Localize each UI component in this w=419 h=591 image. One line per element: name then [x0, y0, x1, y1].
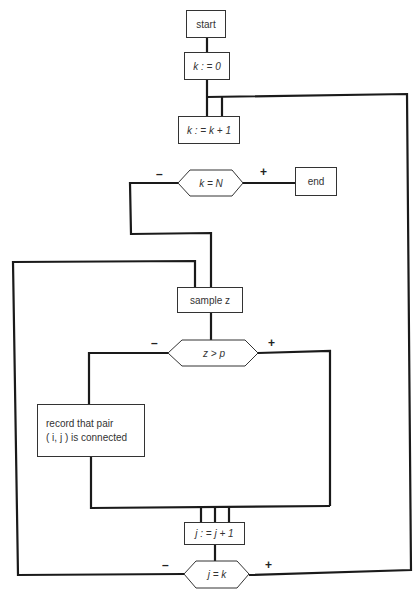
branch-label-z-gt-p-yes: +	[268, 337, 275, 349]
decision-j-equals-k-label: j = k	[208, 569, 227, 580]
start-label: start	[196, 19, 215, 30]
branch-label-j-equals-k-no: –	[162, 559, 169, 571]
record-node: record that pair ( i, j ) is connected	[37, 404, 145, 457]
decision-z-gt-p: z > p	[185, 343, 243, 363]
decision-z-gt-p-label: z > p	[203, 348, 225, 359]
increment-k-node: k : = k + 1	[178, 116, 240, 144]
record-label-line2: ( i, j ) is connected	[46, 431, 127, 445]
increment-j-node: j : = j + 1	[184, 522, 245, 545]
decision-k-equals-n: k = N	[192, 173, 230, 193]
branch-label-j-equals-k-yes: +	[265, 559, 272, 571]
decision-k-equals-n-label: k = N	[199, 178, 223, 189]
init-k-node: k : = 0	[184, 52, 230, 80]
decision-j-equals-k: j = k	[198, 564, 236, 584]
start-node: start	[186, 10, 226, 38]
init-k-label: k : = 0	[193, 61, 221, 72]
end-label: end	[308, 176, 325, 187]
record-label-line1: record that pair	[46, 417, 113, 431]
branch-label-k-equals-n-yes: +	[260, 166, 267, 178]
branch-label-z-gt-p-no: –	[151, 337, 158, 349]
branch-label-k-equals-n-no: –	[156, 168, 163, 180]
end-node: end	[295, 167, 337, 196]
sample-node: sample z	[177, 287, 243, 313]
increment-k-label: k : = k + 1	[187, 125, 231, 136]
increment-j-label: j : = j + 1	[195, 528, 233, 539]
sample-label: sample z	[190, 295, 230, 306]
